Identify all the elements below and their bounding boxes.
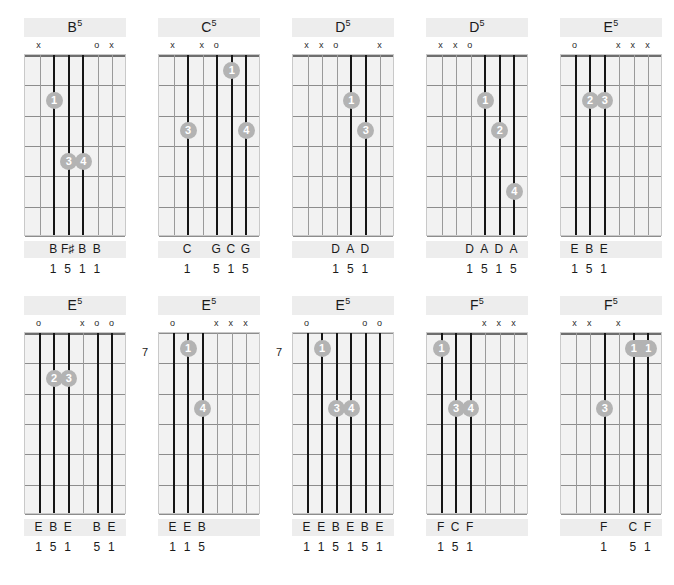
note-name: E bbox=[101, 519, 121, 536]
finger-dot: 1 bbox=[433, 340, 450, 357]
fretboard-wrapper: 113 bbox=[560, 332, 662, 514]
chord-name: B bbox=[68, 19, 78, 35]
chord-title: D5 bbox=[426, 18, 528, 37]
fretboard-wrapper: 23 bbox=[560, 54, 662, 236]
finger-dot: 1 bbox=[477, 92, 494, 109]
note-name: F bbox=[637, 519, 657, 536]
chord-diagram: E5oxxx23EBE151 bbox=[542, 18, 670, 278]
mute-string-marker: x bbox=[33, 39, 45, 52]
mute-string-marker: x bbox=[167, 39, 179, 52]
finger-dot: 4 bbox=[343, 400, 360, 417]
string-line bbox=[500, 333, 501, 513]
note-name-row: EEB bbox=[158, 519, 260, 536]
chord-name: F bbox=[604, 297, 613, 313]
string-line bbox=[68, 55, 70, 235]
string-line bbox=[187, 333, 189, 513]
string-line bbox=[173, 333, 175, 513]
string-line bbox=[187, 55, 189, 235]
interval-row: 15151 bbox=[24, 539, 126, 556]
string-line bbox=[604, 333, 606, 513]
finger-dot: 3 bbox=[596, 92, 613, 109]
chord-row: B5xox134BF♯BB1511C5xxo134CGCG1515D5xxox1… bbox=[0, 18, 674, 278]
fretboard: 23 bbox=[560, 54, 662, 236]
finger-dot: 1 bbox=[343, 92, 360, 109]
string-line bbox=[308, 55, 309, 235]
chord-title: F5 bbox=[426, 296, 528, 315]
finger-dot: 3 bbox=[60, 370, 77, 387]
string-marker-row: xxox bbox=[292, 39, 394, 54]
mute-string-marker: x bbox=[315, 39, 327, 52]
chord-name: D bbox=[335, 19, 345, 35]
chord-title: F5 bbox=[560, 296, 662, 315]
interval-degree: 1 bbox=[460, 539, 480, 556]
chord-quality-superscript: 5 bbox=[211, 296, 216, 306]
interval-degree: 1 bbox=[87, 261, 107, 278]
finger-dot: 4 bbox=[75, 153, 92, 170]
string-line bbox=[576, 333, 577, 513]
chord-diagram: F5xxx134FCF151 bbox=[408, 296, 536, 556]
string-line bbox=[53, 55, 55, 235]
string-line bbox=[82, 55, 84, 235]
open-string-marker: o bbox=[105, 317, 117, 330]
string-line bbox=[441, 333, 443, 513]
open-string-marker: o bbox=[373, 317, 385, 330]
note-name-row: DADA bbox=[426, 241, 528, 258]
mute-string-marker: x bbox=[76, 317, 88, 330]
interval-degree: 1 bbox=[594, 261, 614, 278]
interval-degree: 1 bbox=[594, 539, 614, 556]
string-line bbox=[485, 333, 486, 513]
chord-name: E bbox=[68, 297, 78, 313]
chord-diagram: E5ooo7134EEBEBE115151 bbox=[274, 296, 402, 556]
fretboard-wrapper: 134 bbox=[426, 332, 528, 514]
note-name-row: BF♯BB bbox=[24, 241, 126, 258]
fretboard-wrapper: 7134 bbox=[292, 332, 394, 514]
string-line bbox=[68, 333, 70, 513]
string-line bbox=[174, 55, 175, 235]
chord-name: D bbox=[469, 19, 479, 35]
note-name: B bbox=[192, 519, 212, 536]
string-line bbox=[245, 55, 247, 235]
finger-dot: 1 bbox=[314, 340, 331, 357]
finger-dot: 3 bbox=[180, 122, 197, 139]
finger-dot: 1 bbox=[46, 92, 63, 109]
finger-dot: 1 bbox=[180, 340, 197, 357]
fretboard: 134 bbox=[292, 332, 394, 514]
string-line bbox=[484, 55, 486, 235]
string-line bbox=[97, 333, 99, 513]
fretboard: 14 bbox=[158, 332, 260, 514]
chord-quality-superscript: 5 bbox=[479, 296, 484, 306]
chord-title: E5 bbox=[560, 18, 662, 37]
string-marker-row: xxx bbox=[426, 317, 528, 332]
string-line bbox=[619, 333, 620, 513]
string-marker-row: xxo bbox=[158, 39, 260, 54]
string-line bbox=[83, 333, 84, 513]
fretboard-wrapper: 134 bbox=[158, 54, 260, 236]
chord-quality-superscript: 5 bbox=[345, 296, 350, 306]
string-marker-row: oxoo bbox=[24, 317, 126, 332]
open-string-marker: o bbox=[91, 317, 103, 330]
interval-degree: 1 bbox=[637, 539, 657, 556]
mute-string-marker: x bbox=[641, 39, 653, 52]
string-line bbox=[111, 333, 113, 513]
fretboard-wrapper: 13 bbox=[292, 54, 394, 236]
string-line bbox=[380, 55, 381, 235]
note-name-row: FCF bbox=[560, 519, 662, 536]
string-line bbox=[575, 55, 577, 235]
note-name: E bbox=[58, 519, 78, 536]
string-line bbox=[216, 55, 218, 235]
interval-degree: 1 bbox=[369, 539, 389, 556]
chord-title: E5 bbox=[24, 296, 126, 315]
interval-row: 1515 bbox=[426, 261, 528, 278]
chord-quality-superscript: 5 bbox=[613, 296, 618, 306]
finger-dot: 4 bbox=[238, 122, 255, 139]
string-line bbox=[471, 55, 472, 235]
chord-name: E bbox=[202, 297, 212, 313]
string-marker-row: xxo bbox=[426, 39, 528, 54]
chord-diagram: F5xxx113FCF151 bbox=[542, 296, 670, 556]
note-name-row: CGCG bbox=[158, 241, 260, 258]
chord-quality-superscript: 5 bbox=[77, 296, 82, 306]
interval-row: 151 bbox=[560, 539, 662, 556]
chord-title: C5 bbox=[158, 18, 260, 37]
chord-name: E bbox=[336, 297, 346, 313]
string-marker-row: oxxx bbox=[158, 317, 260, 332]
